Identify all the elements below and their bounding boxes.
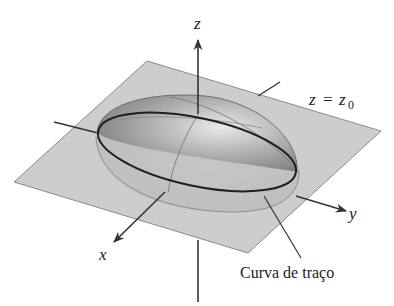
x-axis-label: x bbox=[98, 245, 107, 264]
y-axis-label: y bbox=[347, 204, 357, 223]
y-axis-back bbox=[258, 82, 280, 96]
plane-label: z = z 0 bbox=[308, 90, 354, 112]
plane-label-var: z bbox=[308, 90, 316, 109]
plane-label-rhs: z bbox=[338, 90, 346, 109]
plane-label-eq: = bbox=[323, 90, 333, 109]
y-axis bbox=[296, 196, 346, 211]
trace-curve-label: Curva de traço bbox=[240, 264, 334, 282]
ellipsoid-trace-diagram: z y x z = z 0 Curva de traço bbox=[0, 0, 394, 306]
z-axis-label: z bbox=[193, 14, 201, 33]
plane-label-sub: 0 bbox=[348, 98, 354, 112]
